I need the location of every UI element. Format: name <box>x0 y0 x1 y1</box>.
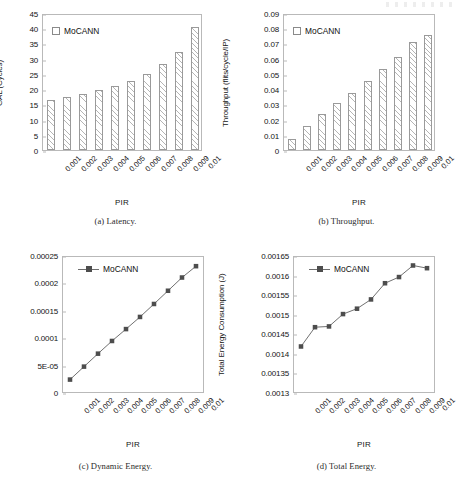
x-tick-label: 0.007 <box>159 154 178 173</box>
bar <box>143 74 151 150</box>
caption-total-energy: (d) Total Energy. <box>231 461 462 471</box>
bar <box>348 93 356 150</box>
y-tick-label: 40 <box>29 25 38 34</box>
subplot-dynamic-energy: Dyn. Energy Consumption (J)05E-050.00010… <box>0 240 231 479</box>
x-tick-label: 0.008 <box>175 154 194 173</box>
bar <box>127 81 135 150</box>
y-tick-label: 35 <box>29 40 38 49</box>
x-axis-label: PIR <box>293 440 435 449</box>
x-tick-label: 0.007 <box>395 154 414 173</box>
bar <box>409 42 417 150</box>
x-tick-label: 0.002 <box>79 154 98 173</box>
legend: MoCANN <box>309 264 369 274</box>
y-tick-label: 0.0002 <box>34 279 58 288</box>
chart-total-energy: Total Energy Consumption (J)0.00130.0013… <box>231 240 462 455</box>
y-tick-label: 0 <box>34 147 38 156</box>
y-tick-label: 0.0013 <box>265 389 289 398</box>
y-tick-label: 0.02 <box>264 116 279 125</box>
y-tick-label: 0.07 <box>264 40 279 49</box>
x-tick-label: 0.005 <box>365 154 384 173</box>
legend-line-marker-icon <box>309 266 330 273</box>
y-tick-label: 0 <box>275 147 279 156</box>
legend-line-marker-icon <box>78 266 99 273</box>
y-tick-label: 0.03 <box>264 101 279 110</box>
y-axis-label: Throughput (flits/cycle/IP) <box>221 13 230 153</box>
y-tick-label: 0.00015 <box>30 306 58 315</box>
bar <box>95 90 103 150</box>
y-axis-ticks: 0.00130.001350.00140.001450.00150.001550… <box>231 256 289 393</box>
y-tick-label: 0.00165 <box>261 252 289 261</box>
bar <box>333 103 341 150</box>
bar <box>175 52 183 150</box>
bar <box>288 139 296 150</box>
y-tick-label: 0.00135 <box>261 369 289 378</box>
legend-bar-swatch-icon <box>293 27 301 35</box>
x-tick-label: 0.004 <box>111 154 130 173</box>
y-tick-label: 0.0014 <box>265 349 289 358</box>
plot-area <box>62 256 204 393</box>
bar <box>47 100 55 150</box>
x-tick-label: 0.006 <box>143 154 162 173</box>
bar <box>364 81 372 150</box>
plot-area <box>293 256 435 393</box>
caption-dynamic-energy: (c) Dynamic Energy. <box>0 461 231 471</box>
y-tick-mark <box>63 394 66 395</box>
chart-dynamic-energy: Dyn. Energy Consumption (J)05E-050.00010… <box>0 240 231 455</box>
subplot-grid: GAL (Cycles)0510152025303540450.0010.002… <box>0 0 462 479</box>
figure-page: GAL (Cycles)0510152025303540450.0010.002… <box>0 0 462 479</box>
x-axis-label: PIR <box>62 440 204 449</box>
x-tick-label: 0.003 <box>95 154 114 173</box>
y-tick-label: 0 <box>54 389 58 398</box>
bar <box>424 35 432 150</box>
y-tick-label: 0.0001 <box>34 334 58 343</box>
y-tick-label: 45 <box>29 10 38 19</box>
y-tick-label: 0.0015 <box>265 310 289 319</box>
y-tick-label: 0.09 <box>264 10 279 19</box>
subplot-throughput: Throughput (flits/cycle/IP)00.010.020.03… <box>231 0 462 240</box>
legend-label: MoCANN <box>305 26 340 36</box>
y-tick-label: 0.00025 <box>30 252 58 261</box>
y-tick-label: 0.05 <box>264 70 279 79</box>
y-tick-label: 5 <box>34 131 38 140</box>
y-axis-ticks: 00.010.020.030.040.050.060.070.080.09 <box>231 14 279 151</box>
legend: MoCANN <box>293 26 340 36</box>
x-axis-label: PIR <box>42 198 202 207</box>
y-tick-mark <box>284 152 287 153</box>
legend: MoCANN <box>78 264 138 274</box>
chart-throughput: Throughput (flits/cycle/IP)00.010.020.03… <box>231 0 462 215</box>
subplot-latency: GAL (Cycles)0510152025303540450.0010.002… <box>0 0 231 240</box>
y-tick-label: 10 <box>29 116 38 125</box>
bar <box>191 27 199 150</box>
y-tick-label: 0.01 <box>264 131 279 140</box>
y-tick-mark <box>294 394 297 395</box>
y-tick-label: 15 <box>29 101 38 110</box>
x-axis-label: PIR <box>283 198 435 207</box>
caption-latency: (a) Latency. <box>0 216 231 226</box>
y-tick-label: 20 <box>29 86 38 95</box>
y-tick-mark <box>43 152 46 153</box>
bar <box>63 97 71 150</box>
y-axis-ticks: 051015202530354045 <box>0 14 38 151</box>
x-tick-label: 0.01 <box>206 154 223 171</box>
y-tick-label: 0.00155 <box>261 291 289 300</box>
y-tick-label: 0.00145 <box>261 330 289 339</box>
bar <box>394 57 402 150</box>
line-series-mocann <box>294 257 434 392</box>
y-axis-label: Total Energy Consumption (J) <box>217 249 226 401</box>
x-tick-label: 0.006 <box>380 154 399 173</box>
legend-label: MoCANN <box>64 26 99 36</box>
bar <box>79 94 87 150</box>
y-tick-label: 30 <box>29 55 38 64</box>
bar <box>318 114 326 150</box>
caption-throughput: (b) Throughput. <box>231 216 462 226</box>
legend-label: MoCANN <box>103 264 138 274</box>
bar <box>159 64 167 150</box>
x-tick-label: 0.01 <box>440 154 457 171</box>
x-tick-label: 0.005 <box>127 154 146 173</box>
bar <box>303 126 311 150</box>
y-tick-label: 5E-05 <box>37 361 58 370</box>
y-tick-label: 0.08 <box>264 25 279 34</box>
y-axis-ticks: 05E-050.00010.000150.00020.00025 <box>0 256 58 393</box>
line-series-mocann <box>63 257 203 392</box>
y-tick-label: 25 <box>29 70 38 79</box>
